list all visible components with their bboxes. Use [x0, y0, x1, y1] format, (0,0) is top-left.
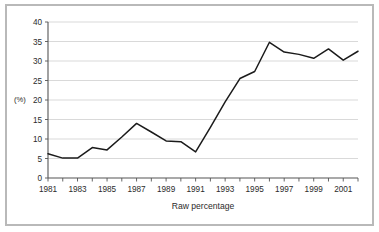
y-tick-label: 25 [33, 77, 43, 86]
y-tick-label: 0 [37, 174, 42, 183]
y-tick-label: 35 [33, 38, 43, 47]
x-tick-label: 1987 [127, 185, 146, 194]
x-tick-label: 1991 [187, 185, 206, 194]
y-tick-label: 10 [33, 135, 43, 144]
y-tick-label: 20 [33, 96, 43, 105]
x-tick-label: 1993 [216, 185, 235, 194]
x-axis-tick-labels: 1981198319851987198919911993199519971999… [39, 185, 353, 194]
y-axis-tick-labels: 0510152025303540 [33, 18, 43, 183]
x-tick-label: 1995 [246, 185, 265, 194]
x-tick-label: 1985 [98, 185, 117, 194]
x-tick-label: 1999 [305, 185, 324, 194]
gridlines-group [48, 22, 358, 159]
chart-figure: 0510152025303540 19811983198519871989199… [0, 0, 379, 232]
line-chart: 0510152025303540 19811983198519871989199… [0, 0, 379, 232]
x-axis-title: Raw percentage [172, 201, 235, 211]
x-tick-label: 1997 [275, 185, 294, 194]
x-tick-label: 2001 [334, 185, 353, 194]
y-tick-label: 5 [37, 155, 42, 164]
x-tick-label: 1981 [39, 185, 58, 194]
y-axis-title: (%) [14, 95, 26, 104]
y-tick-label: 15 [33, 116, 43, 125]
x-tick-label: 1989 [157, 185, 176, 194]
y-tick-label: 30 [33, 57, 43, 66]
y-tick-label: 40 [33, 18, 43, 27]
x-tick-label: 1983 [68, 185, 87, 194]
